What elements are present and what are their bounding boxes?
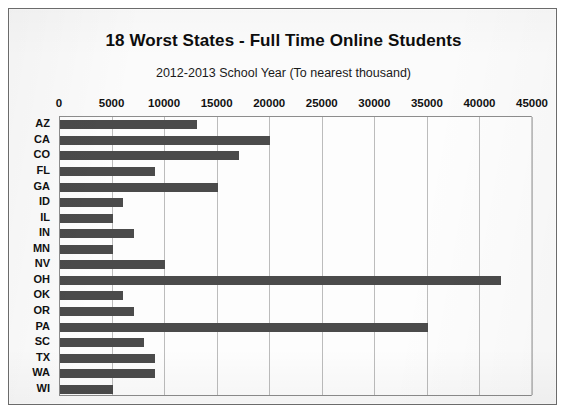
bar xyxy=(60,229,134,238)
x-tick-label: 0 xyxy=(56,97,62,109)
gridline xyxy=(532,117,533,395)
bar xyxy=(60,214,113,223)
bar xyxy=(60,245,113,254)
bar xyxy=(60,198,123,207)
y-tick-label: IN xyxy=(39,227,50,238)
bar xyxy=(60,338,144,347)
bar xyxy=(60,120,197,129)
bar xyxy=(60,260,165,269)
bar xyxy=(60,136,270,145)
y-tick-label: SC xyxy=(35,336,50,347)
bar xyxy=(60,385,113,394)
gridline xyxy=(374,117,375,395)
x-tick-label: 35000 xyxy=(411,97,443,109)
x-tick-label: 40000 xyxy=(463,97,495,109)
x-tick-label: 30000 xyxy=(358,97,390,109)
x-tick-label: 10000 xyxy=(148,97,180,109)
x-tick-label: 5000 xyxy=(99,97,125,109)
y-axis-category-labels: AZCACOFLGAIDILINMNNVOHOKORPASCTXWAWI xyxy=(9,116,55,396)
y-tick-label: PA xyxy=(36,321,50,332)
y-tick-label: OR xyxy=(34,305,51,316)
x-tick-label: 20000 xyxy=(253,97,285,109)
y-tick-label: FL xyxy=(37,165,50,176)
y-tick-label: TX xyxy=(36,352,50,363)
bar xyxy=(60,323,428,332)
bar xyxy=(60,354,155,363)
page-border: 18 Worst States - Full Time Online Stude… xyxy=(8,8,557,405)
x-tick-label: 25000 xyxy=(306,97,338,109)
bar xyxy=(60,151,239,160)
x-tick-label: 15000 xyxy=(201,97,233,109)
bar xyxy=(60,276,501,285)
y-tick-label: AZ xyxy=(35,118,50,129)
y-tick-label: WA xyxy=(32,367,50,378)
gridline xyxy=(427,117,428,395)
y-tick-label: CA xyxy=(34,134,50,145)
chart-title: 18 Worst States - Full Time Online Stude… xyxy=(9,31,558,51)
y-tick-label: IL xyxy=(40,212,50,223)
y-tick-label: ID xyxy=(39,196,50,207)
y-tick-label: OK xyxy=(34,289,51,300)
gridline xyxy=(322,117,323,395)
y-tick-label: OH xyxy=(34,274,51,285)
gridline xyxy=(269,117,270,395)
y-tick-label: WI xyxy=(37,383,50,394)
plot-area xyxy=(59,116,532,396)
bar xyxy=(60,307,134,316)
scanned-chart-page: 18 Worst States - Full Time Online Stude… xyxy=(0,0,569,416)
gridline xyxy=(479,117,480,395)
x-axis-tick-labels: 0500010000150002000025000300003500040000… xyxy=(9,97,558,113)
y-tick-label: CO xyxy=(34,149,51,160)
bar xyxy=(60,167,155,176)
bar xyxy=(60,291,123,300)
bar xyxy=(60,369,155,378)
bar xyxy=(60,183,218,192)
y-tick-label: MN xyxy=(33,243,50,254)
y-tick-label: GA xyxy=(34,181,51,192)
y-tick-label: NV xyxy=(35,258,50,269)
x-tick-label: 45000 xyxy=(516,97,548,109)
chart-subtitle: 2012-2013 School Year (To nearest thousa… xyxy=(9,66,558,80)
